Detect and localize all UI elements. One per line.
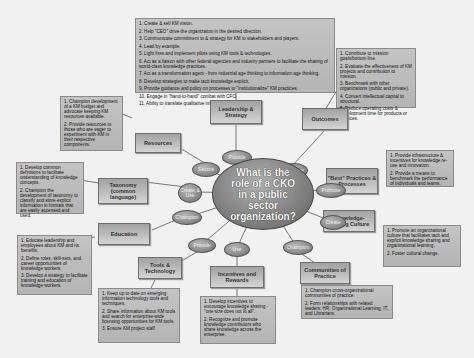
outcomes-list: 1. Contribute to mission goals/bottom li…	[336, 48, 416, 108]
verb-use: Use	[224, 242, 250, 257]
node-incentives-rewards: Incentives and Rewards	[210, 266, 264, 288]
best-practices-list: 1. Provide infrastructure & incentives f…	[386, 150, 454, 187]
node-education: Education	[98, 223, 150, 245]
node-taxonomy: Taxonomy (common language)	[98, 178, 148, 204]
tools-list: 1. Keep up to date on emerging informati…	[98, 288, 180, 343]
node-leadership-strategy: Leadership & Strategy	[210, 100, 262, 124]
verb-promote: Promote	[316, 183, 346, 198]
verb-champion-right: Champion	[283, 240, 313, 255]
node-outcomes: Outcomes	[302, 108, 348, 130]
taxonomy-list: 1. Develop common definitions to facilit…	[16, 162, 84, 214]
resources-list: 1. Champion development of a KM budget a…	[60, 96, 123, 151]
verb-secure: Secure	[192, 162, 220, 177]
diagram-canvas: 1. Create & sell KM vision. 2. Help "CEO…	[0, 0, 474, 358]
central-question: What is the role of a CKO in a public se…	[212, 158, 314, 230]
knowledge-culture-list: 1. Promote an organizational culture tha…	[383, 225, 461, 267]
communities-list: 1. Champion cross-organizational communi…	[301, 285, 393, 319]
leadership-list: 1. Create & sell KM vision. 2. Help "CEO…	[135, 18, 335, 93]
verb-champion-left: Champion	[172, 210, 202, 225]
incentives-list: 1. Develop incentives to encourage knowl…	[200, 296, 276, 344]
verb-create-use: Create & Use	[178, 183, 202, 203]
education-list: 1. Educate leadership and employees abou…	[17, 235, 92, 295]
verb-provide-bottom: Provide	[188, 238, 216, 253]
node-resources: Resources	[135, 133, 181, 153]
verb-create-right: Create	[320, 215, 346, 230]
node-communities-practice: Communities of Practice	[300, 262, 350, 284]
node-tools-technology: Tools & Technology	[138, 257, 182, 279]
